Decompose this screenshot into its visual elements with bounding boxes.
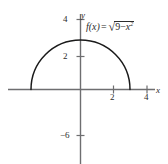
- equals-sign: =: [100, 21, 108, 32]
- y-tick-label-minus-6: −6: [60, 131, 70, 140]
- radicand-exponent: 2: [130, 21, 133, 27]
- x-axis-label: x: [156, 86, 160, 95]
- graph-figure: 4 2 −6 2 4 y x f(x)=√9−x2: [0, 0, 168, 164]
- function-equation-label: f(x)=√9−x2: [86, 21, 134, 33]
- x-tick-label-4: 4: [144, 93, 149, 102]
- function-notation: f(x): [86, 21, 100, 32]
- y-tick-label-4: 4: [63, 15, 68, 24]
- y-tick-label-2: 2: [63, 52, 68, 61]
- y-axis-label: y: [81, 11, 85, 20]
- x-tick-label-2: 2: [110, 93, 115, 102]
- radicand: 9−x2: [114, 21, 134, 32]
- plot-canvas: [0, 0, 168, 164]
- square-root-expression: √9−x2: [108, 21, 135, 33]
